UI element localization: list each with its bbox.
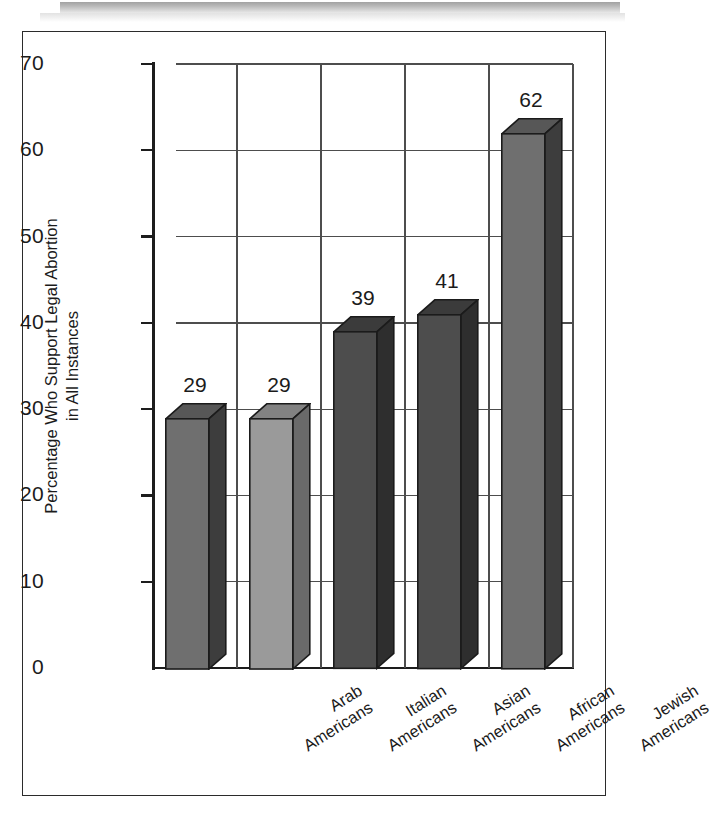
bar-3d-shape-2	[249, 403, 311, 670]
y-axis-title: Percentage Who Support Legal Abortion in…	[41, 196, 83, 536]
y-tick-label-40: 40	[0, 310, 44, 334]
bar-2	[249, 403, 309, 668]
y-tick-30	[141, 408, 154, 410]
gridline-x-3	[404, 64, 405, 668]
bar-value-label-3: 39	[328, 286, 398, 310]
bar-value-label-5: 62	[496, 88, 566, 112]
gridline-x-5	[572, 64, 573, 668]
bar-3d-shape-5	[501, 118, 563, 670]
y-axis-title-line-1: Percentage Who Support Legal Abortion	[41, 196, 62, 536]
y-tick-70	[141, 63, 154, 65]
y-tick-label-30: 30	[0, 396, 44, 420]
y-tick-60	[141, 149, 154, 151]
y-tick-label-0: 0	[0, 655, 44, 679]
bar-value-label-4: 41	[412, 269, 482, 293]
bar-value-label-1: 29	[160, 373, 230, 397]
y-tick-50	[141, 235, 154, 237]
y-axis-title-line-2: in All Instances	[62, 196, 83, 536]
y-tick-20	[141, 494, 154, 496]
y-tick-10	[141, 581, 154, 583]
gridline-x-1	[236, 64, 237, 668]
y-tick-label-60: 60	[0, 137, 44, 161]
y-tick-label-50: 50	[0, 224, 44, 248]
bar-4	[417, 299, 477, 668]
y-axis-line	[152, 62, 155, 670]
bar-1	[165, 403, 225, 668]
bar-3d-shape-4	[417, 299, 479, 670]
bar-value-label-2: 29	[244, 373, 314, 397]
bar-3d-shape-1	[165, 403, 227, 670]
gridline-x-4	[488, 64, 489, 668]
bar-3d-shape-3	[333, 316, 395, 670]
bar-3	[333, 316, 393, 668]
gridline-x-2	[320, 64, 321, 668]
y-tick-40	[141, 322, 154, 324]
bar-5	[501, 118, 561, 668]
y-tick-label-70: 70	[0, 51, 44, 75]
y-tick-label-20: 20	[0, 482, 44, 506]
y-tick-label-10: 10	[0, 569, 44, 593]
